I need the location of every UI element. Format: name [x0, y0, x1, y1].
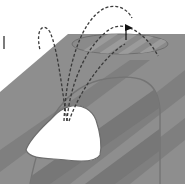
- golf-diagram: Golf bunker shot trajectories: [0, 0, 185, 184]
- fairway: [0, 34, 185, 184]
